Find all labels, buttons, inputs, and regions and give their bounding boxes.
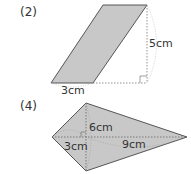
figure-4: (4) 6cm 3cm 9cm [20,99,187,171]
figure-2: (2) 5cm 3cm [20,5,173,97]
vertical-diagonal-label: 6cm [89,121,113,134]
parallelogram-shape [51,5,147,83]
right-angle-marker [140,76,147,83]
figure-2-number: (2) [20,5,37,19]
figure-4-number: (4) [20,99,37,113]
height-label: 5cm [149,37,173,50]
geometry-figures: (2) 5cm 3cm (4) 6cm 3cm 9cm [0,0,191,174]
right-segment-label: 9cm [122,138,146,151]
left-segment-label: 3cm [64,140,88,153]
base-label: 3cm [61,84,85,97]
